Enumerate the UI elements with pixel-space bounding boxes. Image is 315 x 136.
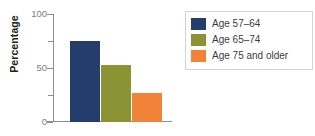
legend-swatch-icon — [191, 50, 206, 62]
legend-swatch-icon — [191, 34, 206, 46]
bar-chart-figure: Percentage 100 50 0 Age 57–64 Age 65–74 … — [0, 0, 315, 136]
legend-item-age-75-and-older: Age 75 and older — [191, 48, 307, 64]
y-tick-label-100: 100 — [19, 9, 47, 19]
bars-layer — [53, 14, 172, 122]
y-tick-label-50: 50 — [19, 63, 47, 73]
legend-item-age-65-74: Age 65–74 — [191, 32, 307, 48]
bar-age-57-64 — [70, 41, 100, 122]
bar-age-75-and-older — [132, 93, 162, 122]
legend-item-label: Age 65–74 — [212, 35, 260, 45]
bar-age-65-74 — [101, 65, 131, 122]
legend-item-age-57-64: Age 57–64 — [191, 16, 307, 32]
legend-swatch-icon — [191, 18, 206, 30]
y-tick-label-0: 0 — [19, 117, 47, 127]
legend-item-label: Age 57–64 — [212, 19, 260, 29]
legend-item-label: Age 75 and older — [212, 51, 288, 61]
legend: Age 57–64 Age 65–74 Age 75 and older — [185, 11, 313, 70]
